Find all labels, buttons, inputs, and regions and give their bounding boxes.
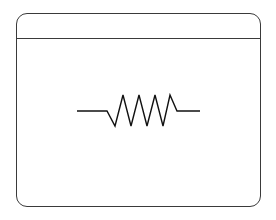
resistor-icon: [0, 0, 276, 220]
resistor-symbol: [77, 95, 200, 126]
